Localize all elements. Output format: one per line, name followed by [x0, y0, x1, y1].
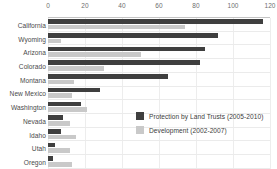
bar-development	[48, 107, 87, 112]
bar-development	[48, 52, 141, 57]
bar-row: Montana	[0, 73, 277, 87]
x-axis: 020406080100120	[48, 0, 270, 18]
legend-label: Development (2002-2007)	[149, 127, 227, 134]
category-label: Arizona	[23, 49, 46, 56]
bar-protection	[48, 115, 63, 120]
bar-development	[48, 148, 70, 153]
category-label: New Mexico	[10, 90, 46, 97]
x-tick-label: 0	[46, 2, 50, 9]
bar-development	[48, 39, 61, 44]
bar-protection	[48, 74, 168, 79]
category-label: Nevada	[23, 117, 46, 124]
plot-area: CaliforniaWyomingArizonaColoradoMontanaN…	[0, 18, 277, 169]
row-separator	[48, 168, 270, 169]
x-tick-label: 80	[192, 2, 199, 9]
x-tick-label: 60	[155, 2, 162, 9]
bar-row: California	[0, 18, 277, 32]
legend-item[interactable]: Development (2002-2007)	[136, 126, 272, 134]
chart-legend: Protection by Land Trusts (2005-2010)Dev…	[136, 112, 272, 140]
legend-label: Protection by Land Trusts (2005-2010)	[149, 113, 263, 120]
x-tick-label: 20	[81, 2, 88, 9]
x-tick-label: 120	[264, 2, 275, 9]
legend-item[interactable]: Protection by Land Trusts (2005-2010)	[136, 112, 272, 120]
bar-development	[48, 66, 104, 71]
bar-chart: 020406080100120 CaliforniaWyomingArizona…	[0, 0, 277, 169]
category-label: Utah	[32, 145, 46, 152]
bar-rows: CaliforniaWyomingArizonaColoradoMontanaN…	[0, 18, 277, 169]
x-tick-label: 100	[227, 2, 238, 9]
legend-swatch-icon	[136, 112, 144, 120]
bar-protection	[48, 156, 53, 161]
bar-protection	[48, 88, 100, 93]
category-label: Colorado	[19, 63, 46, 70]
category-label: California	[18, 21, 46, 28]
bar-development	[48, 135, 76, 140]
bar-protection	[48, 47, 205, 52]
bar-development	[48, 121, 70, 126]
bar-row: Colorado	[0, 59, 277, 73]
bar-protection	[48, 143, 55, 148]
bar-protection	[48, 33, 218, 38]
bar-row: Utah	[0, 141, 277, 155]
category-label: Washington	[11, 104, 46, 111]
bar-development	[48, 93, 72, 98]
bar-protection	[48, 129, 61, 134]
x-tick-label: 40	[118, 2, 125, 9]
legend-swatch-icon	[136, 126, 144, 134]
bar-row: Oregon	[0, 155, 277, 169]
bar-development	[48, 25, 185, 30]
category-label: Oregon	[24, 159, 46, 166]
category-label: Idaho	[29, 131, 46, 138]
bar-row: Arizona	[0, 45, 277, 59]
category-label: Wyoming	[18, 35, 46, 42]
bar-development	[48, 162, 72, 167]
bar-development	[48, 80, 74, 85]
bar-row: New Mexico	[0, 87, 277, 101]
bar-protection	[48, 102, 81, 107]
bar-row: Wyoming	[0, 32, 277, 46]
bar-protection	[48, 19, 263, 24]
category-label: Montana	[20, 76, 46, 83]
bar-protection	[48, 60, 200, 65]
